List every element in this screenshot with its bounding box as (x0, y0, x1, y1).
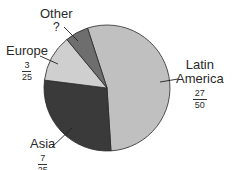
label-other: Other ? (40, 7, 73, 33)
label-other-value: ? (40, 21, 73, 33)
label-europe: Europe 3 25 (6, 44, 48, 82)
label-latin-america-line2: America (176, 72, 224, 85)
latin-america-denominator: 50 (195, 100, 205, 110)
label-latin-america-line1: Latin (176, 58, 224, 71)
label-asia: Asia 7 25 (30, 137, 55, 170)
label-latin-america: Latin America 27 50 (176, 58, 224, 110)
label-asia-name: Asia (30, 137, 55, 150)
label-asia-fraction: 7 25 (38, 154, 48, 170)
label-latin-america-fraction: 27 50 (193, 89, 207, 110)
label-europe-name: Europe (6, 44, 48, 57)
europe-numerator: 3 (22, 61, 31, 72)
asia-denominator: 25 (38, 165, 48, 170)
pie-slices (44, 25, 170, 151)
latin-america-numerator: 27 (193, 89, 207, 100)
europe-denominator: 25 (22, 72, 32, 82)
asia-numerator: 7 (38, 154, 47, 165)
label-other-name: Other (40, 7, 73, 20)
label-europe-fraction: 3 25 (22, 61, 32, 82)
